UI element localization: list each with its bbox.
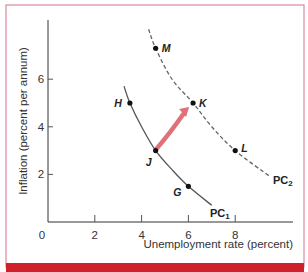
point-label-m: M (162, 42, 171, 54)
y-tick-label: 6 (38, 73, 44, 85)
point-m (153, 46, 158, 51)
bottom-band (6, 263, 304, 272)
y-tick-label: 2 (38, 168, 44, 180)
phillips-curve-chart: 02468 246 Inflation (percent per annum) … (0, 0, 308, 272)
point-l (233, 148, 238, 153)
point-label-l: L (241, 142, 247, 154)
point-h (127, 100, 132, 105)
point-label-g: G (173, 186, 181, 198)
x-tick-label: 2 (92, 229, 98, 241)
point-g (186, 184, 191, 189)
point-label-h: H (114, 97, 122, 109)
frame-border (6, 5, 304, 267)
y-tick-label: 4 (38, 121, 45, 133)
x-tick-label: 0 (39, 229, 45, 241)
point-k (190, 100, 195, 105)
y-axis-label: Inflation (percent per annum) (17, 47, 29, 195)
x-axis-label: Unemployment rate (percent) (143, 238, 293, 250)
chart-frame: 02468 246 Inflation (percent per annum) … (0, 0, 308, 272)
point-j (153, 148, 158, 153)
